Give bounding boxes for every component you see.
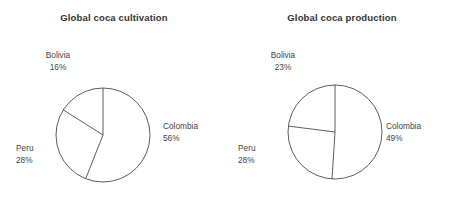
pie-divider-peru-bolivia-cultivation	[63, 110, 103, 135]
pie-chart-cultivation	[0, 0, 228, 202]
pie-label-peru-value-cultivation: 28%	[16, 155, 64, 167]
pie-label-bolivia-production: Bolivia 23%	[253, 50, 313, 73]
pie-label-peru-cultivation: Peru 28%	[16, 143, 64, 166]
pie-divider-colombia-peru-cultivation	[86, 135, 103, 179]
pie-label-peru-production: Peru 28%	[238, 143, 286, 166]
pie-label-bolivia-cultivation: Bolivia 16%	[28, 50, 88, 73]
pie-label-bolivia-value-production: 23%	[253, 62, 313, 74]
pie-figure-cultivation: Global coca cultivation Bolivia 16% Peru…	[0, 0, 228, 202]
pie-label-colombia-value-production: 49%	[386, 133, 448, 145]
pie-figure-production: Global coca production Bolivia 23% Peru …	[228, 0, 456, 202]
pie-label-bolivia-value-cultivation: 16%	[28, 62, 88, 74]
pie-chart-production	[228, 0, 456, 202]
pie-label-colombia-value-cultivation: 56%	[163, 133, 225, 145]
pie-label-peru-name-cultivation: Peru	[16, 143, 64, 155]
pie-label-peru-value-production: 28%	[238, 155, 286, 167]
pie-divider-colombia-peru-production	[332, 132, 335, 179]
pie-label-colombia-production: Colombia 49%	[386, 121, 448, 144]
pie-label-colombia-name-cultivation: Colombia	[163, 121, 225, 133]
pie-label-bolivia-name-production: Bolivia	[253, 50, 313, 62]
pie-label-colombia-cultivation: Colombia 56%	[163, 121, 225, 144]
pie-divider-peru-bolivia-production	[288, 126, 335, 132]
pie-label-bolivia-name-cultivation: Bolivia	[28, 50, 88, 62]
pie-label-colombia-name-production: Colombia	[386, 121, 448, 133]
pie-label-peru-name-production: Peru	[238, 143, 286, 155]
